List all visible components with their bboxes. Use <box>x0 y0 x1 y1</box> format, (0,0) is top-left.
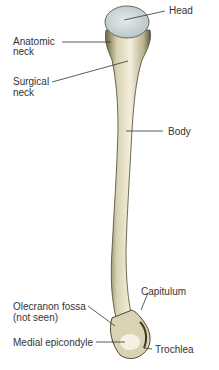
bone-shaft-shape <box>105 30 150 318</box>
label-body: Body <box>168 126 191 137</box>
label-head: Head <box>169 5 193 16</box>
humerus-diagram: Head Anatomic neck Surgical neck Body Ca… <box>0 0 219 370</box>
label-medial-epicondyle: Medial epicondyle <box>13 337 93 348</box>
label-capitulum: Capitulum <box>141 286 186 297</box>
label-surgical-neck-line1: Surgical <box>13 76 49 87</box>
label-anatomic-neck-line2: neck <box>13 46 34 57</box>
olecranon-fossa-leader-line <box>88 306 115 326</box>
label-olecranon-fossa-line2: (not seen) <box>13 312 58 323</box>
humeral-head-shape <box>105 6 149 38</box>
label-trochlea: Trochlea <box>155 344 194 355</box>
label-olecranon-fossa-line1: Olecranon fossa <box>13 301 86 312</box>
label-surgical-neck-line2: neck <box>13 87 34 98</box>
